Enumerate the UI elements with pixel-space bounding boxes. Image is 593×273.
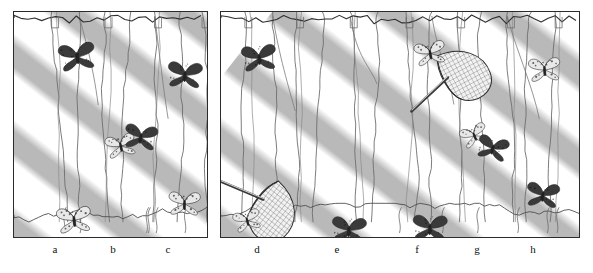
label-e: e [335, 243, 340, 255]
label-b: b [110, 243, 116, 255]
label-a: a [53, 243, 58, 255]
panel-labels: abcdefgh [0, 0, 593, 273]
label-d: d [254, 243, 260, 255]
figure-root: abcdefgh [0, 0, 593, 273]
label-g: g [474, 243, 480, 255]
label-f: f [415, 243, 419, 255]
label-c: c [166, 243, 171, 255]
label-h: h [530, 243, 536, 255]
